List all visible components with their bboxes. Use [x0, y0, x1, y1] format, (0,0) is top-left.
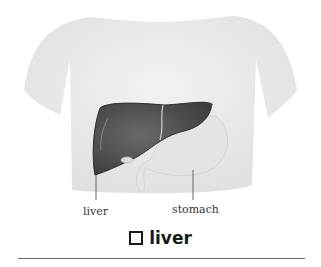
torso-illustration [0, 0, 321, 200]
square-bullet-icon [129, 231, 143, 245]
headword: liver [0, 228, 321, 248]
gallbladder [121, 157, 133, 163]
divider-rule [18, 258, 305, 259]
stomach-label: stomach [172, 203, 219, 216]
liver-label: liver [83, 205, 108, 218]
headword-text: liver [149, 228, 192, 248]
